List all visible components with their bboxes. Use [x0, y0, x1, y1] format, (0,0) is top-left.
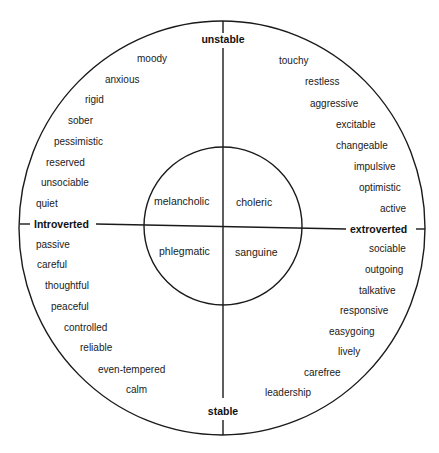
- trait-touchy: touchy: [279, 55, 308, 66]
- temperament-sanguine: sanguine: [235, 246, 278, 258]
- axis-label-introverted: Introverted: [34, 218, 89, 230]
- trait-talkative: talkative: [359, 285, 396, 296]
- trait-careful: careful: [37, 259, 67, 270]
- trait-optimistic: optimistic: [359, 182, 401, 193]
- trait-unsociable: unsociable: [41, 177, 89, 188]
- trait-carefree: carefree: [304, 367, 341, 378]
- trait-quiet: quiet: [36, 198, 58, 209]
- trait-active: active: [380, 203, 407, 214]
- axis-label-unstable: unstable: [201, 33, 244, 45]
- trait-thoughtful: thoughtful: [45, 280, 89, 291]
- trait-reserved: reserved: [46, 157, 85, 168]
- trait-calm: calm: [126, 384, 147, 395]
- trait-lively: lively: [338, 346, 360, 357]
- trait-responsive: responsive: [340, 305, 389, 316]
- trait-anxious: anxious: [105, 74, 139, 85]
- axis-label-extroverted: extroverted: [350, 223, 407, 235]
- trait-pessimistic: pessimistic: [54, 136, 103, 147]
- temperament-melancholic: melancholic: [154, 195, 209, 207]
- trait-easygoing: easygoing: [329, 326, 375, 337]
- horizontal-axis: [96, 224, 346, 229]
- trait-impulsive: impulsive: [354, 161, 396, 172]
- trait-changeable: changeable: [336, 140, 388, 151]
- trait-moody: moody: [137, 53, 167, 64]
- temperament-phlegmatic: phlegmatic: [159, 245, 210, 257]
- trait-controlled: controlled: [64, 322, 107, 333]
- trait-outgoing: outgoing: [365, 264, 403, 275]
- trait-restless: restless: [305, 76, 339, 87]
- trait-passive: passive: [36, 239, 70, 250]
- trait-aggressive: aggressive: [310, 98, 359, 109]
- trait-peaceful: peaceful: [51, 301, 89, 312]
- trait-leadership: leadership: [265, 387, 312, 398]
- temperament-diagram: unstable stable Introverted extroverted …: [0, 0, 439, 453]
- trait-reliable: reliable: [80, 342, 113, 353]
- temperament-choleric: choleric: [236, 196, 272, 208]
- axis-label-stable: stable: [208, 405, 239, 417]
- trait-rigid: rigid: [85, 94, 104, 105]
- trait-excitable: excitable: [336, 119, 376, 130]
- trait-sociable: sociable: [369, 243, 406, 254]
- trait-sober: sober: [68, 115, 94, 126]
- trait-even-tempered: even-tempered: [98, 364, 165, 375]
